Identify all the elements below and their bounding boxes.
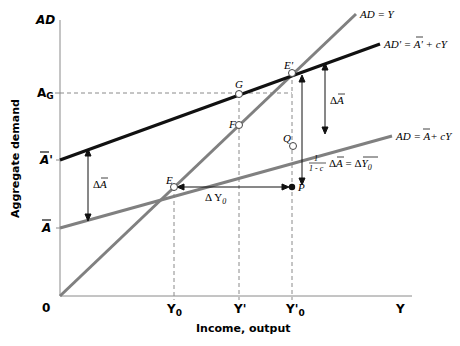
delta-a-left-label: ΔA [93, 178, 108, 190]
svg-text:A: A [41, 221, 51, 235]
ad-equals-y-line [60, 14, 356, 296]
label-q: Q [283, 132, 291, 144]
svg-text:1 - c: 1 - c [309, 164, 324, 173]
tick-label-a: A [41, 220, 60, 235]
svg-text:AG: AG [37, 86, 54, 101]
svg-text:ΔA: ΔA [330, 94, 344, 106]
point-g [236, 91, 243, 98]
tick-label-ag: AG [37, 86, 60, 101]
svg-text:AD' = A' + cY: AD' = A' + cY [383, 38, 449, 50]
label-e: E [165, 174, 173, 186]
y-axis-label: Aggregate demand [9, 99, 22, 218]
delta-y0-arrow [177, 184, 289, 190]
label-e-prime: E' [283, 59, 294, 71]
label-p: P [297, 181, 305, 193]
svg-text:A': A' [39, 153, 53, 167]
label-ad-prime: AD' = A' + cY [383, 37, 449, 50]
x-axis-end-label: Y [395, 302, 405, 316]
svg-text:Δ Y0: Δ Y0 [205, 191, 226, 206]
svg-text:Y0: Y0 [166, 302, 182, 318]
y-axis-top-label: AD [35, 13, 55, 27]
svg-text:Y'0: Y'0 [285, 302, 305, 318]
svg-text:Y': Y' [233, 302, 246, 316]
tick-label-y0: Y0 [166, 302, 182, 318]
delta-a-left-arrow [85, 149, 91, 221]
multiplier-arrow [299, 75, 305, 185]
ad-line [60, 136, 392, 228]
svg-text:ΔA = ΔY0: ΔA = ΔY0 [329, 157, 372, 172]
tick-label-y-prime-0: Y'0 [285, 302, 305, 318]
tick-label-y-prime: Y' [233, 302, 246, 316]
label-ad-equals-y: AD = Y [359, 8, 396, 20]
delta-y0-label: Δ Y0 [205, 191, 226, 206]
label-g: G [235, 78, 243, 90]
svg-text:AD = A+ cY: AD = A+ cY [395, 130, 453, 142]
delta-a-right-arrow [322, 63, 328, 134]
label-ad: AD = A+ cY [395, 129, 453, 142]
label-f: F [228, 118, 236, 130]
point-p [289, 184, 295, 190]
delta-a-right-label: ΔA [330, 94, 345, 106]
origin-label: 0 [42, 301, 50, 315]
aggregate-demand-diagram: E E' G F Q P AD = Y AD' = A' + cY AD = A… [0, 0, 460, 346]
tick-label-a-prime: A' [39, 152, 60, 167]
x-axis-label: Income, output [196, 322, 291, 335]
svg-text:ΔA: ΔA [93, 178, 107, 190]
point-f [236, 122, 243, 129]
svg-text:1: 1 [314, 154, 318, 163]
